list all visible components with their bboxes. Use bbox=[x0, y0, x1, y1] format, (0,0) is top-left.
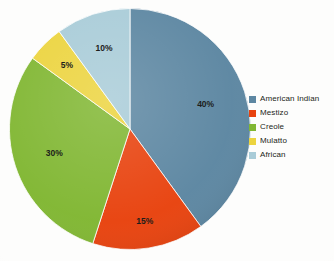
legend-item-mulatto[interactable]: Mulatto bbox=[249, 134, 334, 148]
legend-item-mestizo[interactable]: Mestizo bbox=[249, 106, 334, 120]
chart-legend: American Indian Mestizo Creole Mulatto A… bbox=[249, 92, 334, 162]
pie-chart-figure: 40%15%30%5%10% American Indian Mestizo C… bbox=[0, 0, 334, 261]
legend-swatch-icon bbox=[249, 110, 256, 117]
pie-slice-data-label: 15% bbox=[136, 216, 153, 226]
pie-slice-data-label: 5% bbox=[61, 60, 74, 70]
legend-item-creole[interactable]: Creole bbox=[249, 120, 334, 134]
legend-swatch-icon bbox=[249, 152, 256, 159]
legend-item-american-indian[interactable]: American Indian bbox=[249, 92, 334, 106]
legend-swatch-icon bbox=[249, 124, 256, 131]
legend-item-label: Mestizo bbox=[260, 106, 288, 120]
pie-slice-data-label: 40% bbox=[197, 99, 214, 109]
legend-item-label: African bbox=[260, 148, 286, 162]
legend-item-label: Mulatto bbox=[260, 134, 287, 148]
legend-item-african[interactable]: African bbox=[249, 148, 334, 162]
legend-item-label: Creole bbox=[260, 120, 284, 134]
pie-slice-data-label: 30% bbox=[46, 148, 63, 158]
legend-swatch-icon bbox=[249, 96, 256, 103]
pie-slice-data-label: 10% bbox=[95, 43, 112, 53]
legend-swatch-icon bbox=[249, 138, 256, 145]
legend-item-label: American Indian bbox=[260, 92, 319, 106]
pie-shading-overlay bbox=[10, 9, 251, 250]
